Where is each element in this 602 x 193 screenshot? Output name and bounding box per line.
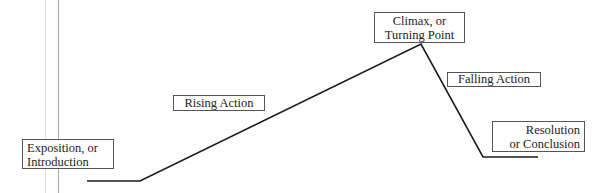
exposition-label-line2: Introduction: [27, 155, 109, 169]
climax-label-line1: Climax, or: [379, 14, 460, 28]
rising-action-label: Rising Action: [173, 95, 265, 111]
rising-action-label-text: Rising Action: [178, 96, 260, 110]
exposition-label: Exposition, or Introduction: [22, 139, 114, 169]
plot-line: [87, 44, 538, 181]
climax-label-line2: Turning Point: [379, 28, 460, 42]
resolution-label: Resolution or Conclusion: [492, 121, 585, 152]
resolution-label-line1: Resolution: [497, 123, 580, 137]
climax-label: Climax, or Turning Point: [374, 12, 465, 43]
resolution-label-line2: or Conclusion: [497, 137, 580, 151]
falling-action-label-text: Falling Action: [452, 73, 536, 86]
exposition-label-line1: Exposition, or: [27, 141, 109, 155]
falling-action-label: Falling Action: [447, 72, 541, 87]
